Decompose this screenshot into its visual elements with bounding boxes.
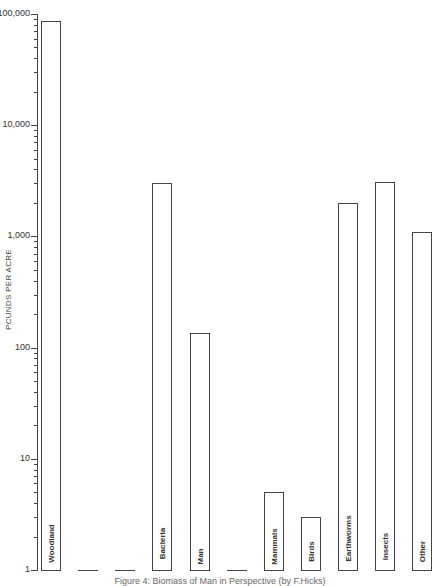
minor-tick: [34, 247, 37, 248]
minor-tick: [34, 314, 37, 315]
bar-man: Man: [190, 333, 210, 571]
bar-label: Insects: [381, 532, 390, 560]
minor-tick: [34, 183, 37, 184]
bar-mammals: Mammals: [264, 492, 284, 571]
minor-tick: [34, 19, 37, 20]
minor-tick: [34, 464, 37, 465]
minor-tick: [34, 142, 37, 143]
minor-tick: [34, 150, 37, 151]
figure-caption: Figure 4: Biomass of Man in Perspective …: [0, 576, 440, 586]
minor-tick: [34, 72, 37, 73]
y-tick-label: 10: [0, 453, 30, 463]
bar-earthworms: Earthworms: [338, 203, 358, 571]
major-tick: [31, 459, 37, 460]
bar-label: Mammals: [270, 528, 279, 564]
bar-insects: Insects: [375, 182, 395, 571]
y-axis-label: PCUNDS PER ACRE: [4, 249, 13, 330]
bar-label: Woodland: [47, 524, 56, 563]
minor-tick: [34, 92, 37, 93]
minor-tick: [34, 169, 37, 170]
bar-label: Birds: [307, 541, 316, 561]
minor-tick: [34, 31, 37, 32]
minor-tick: [34, 372, 37, 373]
minor-tick: [34, 136, 37, 137]
major-tick: [31, 236, 37, 237]
minor-tick: [34, 476, 37, 477]
bar-label: Man: [196, 548, 205, 564]
bar-label: Other: [418, 540, 427, 561]
minor-tick: [34, 241, 37, 242]
minor-tick: [34, 261, 37, 262]
y-tick-label: 100: [0, 342, 30, 352]
minor-tick: [34, 470, 37, 471]
minor-tick: [34, 47, 37, 48]
minor-tick: [34, 483, 37, 484]
y-tick-label: 1,000: [0, 230, 30, 240]
minor-tick: [34, 281, 37, 282]
bar-birds: Birds: [301, 517, 321, 571]
major-tick: [31, 570, 37, 571]
minor-tick: [34, 130, 37, 131]
bar-label: Bacteria: [158, 528, 167, 560]
minor-tick: [34, 517, 37, 518]
minor-tick: [34, 365, 37, 366]
minor-tick: [34, 537, 37, 538]
minor-tick: [34, 159, 37, 160]
minor-tick: [34, 295, 37, 296]
y-tick-label: 1: [0, 564, 30, 574]
minor-tick: [34, 39, 37, 40]
minor-tick: [34, 503, 37, 504]
minor-tick: [34, 381, 37, 382]
y-axis-line: [37, 14, 38, 571]
bar-other: Other: [412, 232, 432, 571]
empty-bar-baseline: [227, 570, 247, 571]
bar-label: Earthworms: [344, 515, 353, 561]
minor-tick: [34, 392, 37, 393]
minor-tick: [34, 203, 37, 204]
minor-tick: [34, 353, 37, 354]
y-tick-label: 100,000: [0, 8, 30, 18]
major-tick: [31, 14, 37, 15]
minor-tick: [34, 425, 37, 426]
bar-woodland: Woodland: [41, 21, 61, 571]
major-tick: [31, 348, 37, 349]
minor-tick: [34, 358, 37, 359]
y-tick-label: 10,000: [0, 119, 30, 129]
minor-tick: [34, 406, 37, 407]
empty-bar-baseline: [78, 570, 98, 571]
minor-tick: [34, 254, 37, 255]
bar-bacteria: Bacteria: [152, 183, 172, 571]
major-tick: [31, 125, 37, 126]
minor-tick: [34, 492, 37, 493]
minor-tick: [34, 270, 37, 271]
minor-tick: [34, 25, 37, 26]
minor-tick: [34, 58, 37, 59]
empty-bar-baseline: [115, 570, 135, 571]
